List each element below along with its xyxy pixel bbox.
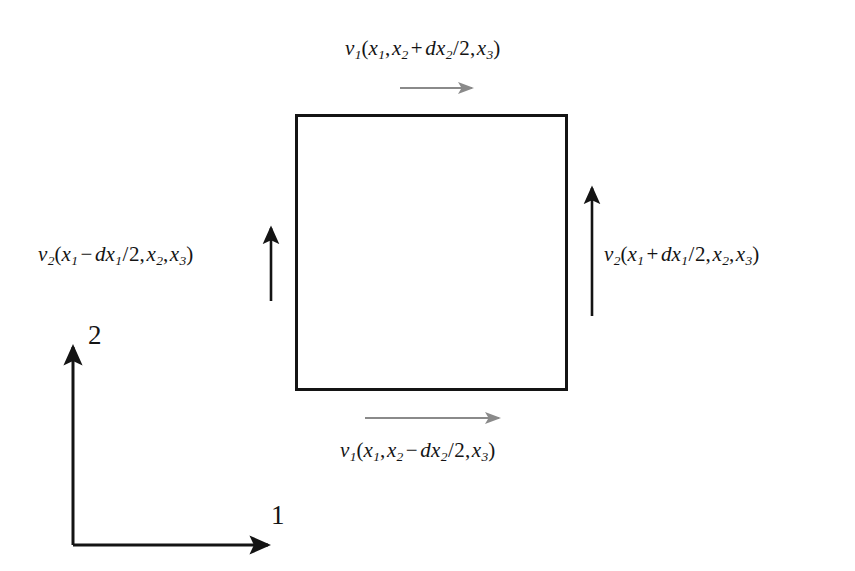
left-label-operator: − <box>81 242 93 266</box>
bottom-label-close-paren: ) <box>488 438 495 462</box>
right-label-open-paren: ( <box>620 242 627 266</box>
top-label-slash: / <box>453 36 459 60</box>
right-label-close-paren: ) <box>752 242 759 266</box>
flux-diagram-figure: v1(x1,x2+dx2/2,x3) v1(x1,x2−dx2/2,x3) v2… <box>0 0 855 571</box>
right-label-divisor: 2 <box>695 242 706 266</box>
axis-label-1: 1 <box>271 500 285 531</box>
left-label-slash: / <box>123 242 129 266</box>
top-label-delta: dx <box>425 36 445 60</box>
right-label-arg2-sub: 2 <box>722 253 729 268</box>
right-label-arg2: x <box>712 242 721 266</box>
right-label-delta: dx <box>661 242 681 266</box>
left-label-delta-sub: 1 <box>115 253 122 268</box>
left-label-arg1: x <box>62 242 71 266</box>
top-label-comma-2: , <box>470 36 475 60</box>
left-label-arg3: x <box>170 242 179 266</box>
bottom-label-arg1: x <box>364 438 373 462</box>
bottom-label-comma-1: , <box>380 438 385 462</box>
right-label-arg3: x <box>736 242 745 266</box>
left-label-close-paren: ) <box>186 242 193 266</box>
v2-right-flux-label: v2(x1+dx1/2,x2,x3) <box>604 242 759 269</box>
bottom-label-delta: dx <box>420 438 440 462</box>
top-label-comma-1: , <box>385 36 390 60</box>
bottom-label-function: v <box>340 438 349 462</box>
right-label-comma-1: , <box>706 242 711 266</box>
right-label-delta-sub: 1 <box>681 253 688 268</box>
bottom-label-arg2: x <box>387 438 396 462</box>
bottom-label-operator: − <box>406 438 418 462</box>
bottom-label-delta-sub: 2 <box>441 449 448 464</box>
bottom-label-open-paren: ( <box>356 438 363 462</box>
top-label-operator: + <box>411 36 423 60</box>
top-label-arg1: x <box>369 36 378 60</box>
right-label-slash: / <box>689 242 695 266</box>
left-label-comma-1: , <box>140 242 145 266</box>
top-label-close-paren: ) <box>493 36 500 60</box>
top-label-arg2-sub: 2 <box>402 47 409 62</box>
left-label-function: v <box>38 242 47 266</box>
top-label-arg3: x <box>477 36 486 60</box>
bottom-label-slash: / <box>448 438 454 462</box>
control-volume-square <box>297 116 567 390</box>
right-label-arg1-sub: 1 <box>637 253 644 268</box>
bottom-label-arg3: x <box>472 438 481 462</box>
right-label-operator: + <box>647 242 659 266</box>
left-label-divisor: 2 <box>129 242 140 266</box>
v1-bottom-flux-label: v1(x1,x2−dx2/2,x3) <box>340 438 495 465</box>
top-label-open-paren: ( <box>361 36 368 60</box>
top-label-delta-sub: 2 <box>446 47 453 62</box>
top-label-function: v <box>345 36 354 60</box>
bottom-label-divisor: 2 <box>454 438 465 462</box>
left-label-arg2-sub: 2 <box>156 253 163 268</box>
top-label-arg2: x <box>392 36 401 60</box>
left-label-delta: dx <box>95 242 115 266</box>
left-label-arg1-sub: 1 <box>71 253 78 268</box>
right-label-arg1: x <box>628 242 637 266</box>
bottom-label-arg2-sub: 2 <box>397 449 404 464</box>
axis-label-2: 2 <box>88 320 102 351</box>
diagram-vector-layer <box>0 0 855 571</box>
v2-left-flux-label: v2(x1−dx1/2,x2,x3) <box>38 242 193 269</box>
left-label-comma-2: , <box>163 242 168 266</box>
v1-top-flux-label: v1(x1,x2+dx2/2,x3) <box>345 36 500 63</box>
left-label-open-paren: ( <box>54 242 61 266</box>
left-label-arg2: x <box>146 242 155 266</box>
top-label-divisor: 2 <box>459 36 470 60</box>
right-label-function: v <box>604 242 613 266</box>
bottom-label-comma-2: , <box>465 438 470 462</box>
right-label-comma-2: , <box>729 242 734 266</box>
